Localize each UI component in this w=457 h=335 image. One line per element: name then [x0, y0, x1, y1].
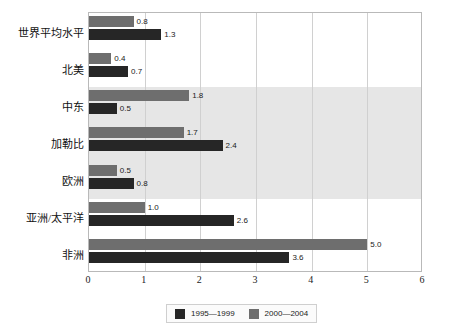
bar-1995-1999: [89, 140, 223, 151]
category-label: 北美: [0, 61, 84, 77]
x-axis-tick-label: 6: [420, 274, 425, 285]
legend-swatch: [175, 309, 185, 319]
bar-2000-2004: [89, 16, 134, 27]
bar-value-label: 0.4: [114, 53, 125, 64]
bar-1995-1999: [89, 103, 117, 114]
x-axis-tick-label: 5: [364, 274, 369, 285]
x-axis-tick-label: 4: [308, 274, 313, 285]
bar-2000-2004: [89, 53, 111, 64]
bar-value-label: 2.6: [237, 215, 248, 226]
bar-chart: 世界平均水平北美中东加勒比欧洲亚洲/太平洋非洲 0.81.30.40.71.80…: [0, 0, 457, 335]
bar-group: 1.80.5: [89, 87, 421, 124]
category-label: 欧洲: [0, 172, 84, 188]
bar-2000-2004: [89, 202, 145, 213]
bar-value-label: 1.3: [164, 29, 175, 40]
legend-item: 2000—2004: [249, 309, 309, 319]
x-axis-tick-label: 2: [197, 274, 202, 285]
bar-value-label: 0.8: [137, 16, 148, 27]
x-axis: 0123456: [88, 274, 422, 294]
x-axis-tick-label: 1: [141, 274, 146, 285]
bar-1995-1999: [89, 29, 161, 40]
plot-area: 0.81.30.40.71.80.51.72.40.50.81.02.65.03…: [88, 12, 422, 272]
bar-2000-2004: [89, 90, 189, 101]
bar-value-label: 0.5: [120, 165, 131, 176]
bar-value-label: 2.4: [226, 140, 237, 151]
x-axis-tick-label: 0: [86, 274, 91, 285]
bar-group: 1.02.6: [89, 199, 421, 236]
bar-1995-1999: [89, 252, 289, 263]
bar-1995-1999: [89, 66, 128, 77]
bar-2000-2004: [89, 165, 117, 176]
bar-2000-2004: [89, 239, 367, 250]
bar-1995-1999: [89, 178, 134, 189]
legend-label: 1995—1999: [191, 309, 235, 318]
category-label: 世界平均水平: [0, 24, 84, 40]
bar-group: 5.03.6: [89, 236, 421, 272]
bar-group: 1.72.4: [89, 124, 421, 161]
category-label: 非洲: [0, 246, 84, 262]
x-axis-tick-label: 3: [253, 274, 258, 285]
bar-value-label: 0.5: [120, 103, 131, 114]
legend-swatch: [249, 309, 259, 319]
bar-value-label: 0.8: [137, 178, 148, 189]
bar-value-label: 3.6: [292, 252, 303, 263]
bar-group: 0.40.7: [89, 50, 421, 87]
legend-item: 1995—1999: [175, 309, 235, 319]
category-label: 中东: [0, 98, 84, 114]
bar-group: 0.81.3: [89, 13, 421, 50]
legend-label: 2000—2004: [265, 309, 309, 318]
chart-legend: 1995—19992000—2004: [166, 304, 317, 323]
bar-2000-2004: [89, 127, 184, 138]
bar-1995-1999: [89, 215, 234, 226]
bar-value-label: 1.0: [148, 202, 159, 213]
bar-group: 0.50.8: [89, 162, 421, 199]
bar-value-label: 5.0: [370, 239, 381, 250]
bar-value-label: 1.7: [187, 127, 198, 138]
category-axis-labels: 世界平均水平北美中东加勒比欧洲亚洲/太平洋非洲: [0, 12, 84, 272]
category-label: 亚洲/太平洋: [0, 209, 84, 225]
bar-value-label: 0.7: [131, 66, 142, 77]
category-label: 加勒比: [0, 135, 84, 151]
bar-value-label: 1.8: [192, 90, 203, 101]
